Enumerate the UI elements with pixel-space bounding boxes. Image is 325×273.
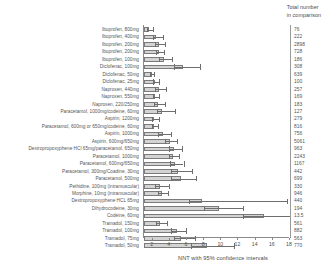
confidence-interval-cap <box>168 191 169 196</box>
totals-divider-line <box>290 25 291 238</box>
confidence-interval-cap <box>175 109 176 114</box>
confidence-interval-cap <box>169 154 170 159</box>
confidence-interval-cap <box>174 64 175 69</box>
confidence-interval-cap <box>155 184 156 189</box>
treatment-label: Aspirin, 1000mg <box>0 130 141 137</box>
total-number-value: 816 <box>292 123 325 130</box>
confidence-interval-cap <box>159 79 160 84</box>
confidence-interval-line <box>153 37 163 38</box>
confidence-interval-cap <box>158 124 159 129</box>
confidence-interval-cap <box>155 42 156 47</box>
bar-row <box>144 190 289 197</box>
confidence-interval-cap <box>153 27 154 32</box>
total-number-value: 330 <box>292 183 325 190</box>
confidence-interval-cap <box>159 117 160 122</box>
treatment-label: Naproxen, 440mg <box>0 86 141 93</box>
bar-row <box>144 212 289 219</box>
confidence-interval-cap <box>152 124 153 129</box>
total-number-value: 127 <box>292 108 325 115</box>
confidence-interval-cap <box>156 50 157 55</box>
bar-row <box>144 78 289 85</box>
total-number-value: 440 <box>292 197 325 204</box>
confidence-interval-line <box>169 156 179 157</box>
treatment-label: Ibuprofen, 100mg <box>0 56 141 63</box>
confidence-interval-cap <box>153 35 154 40</box>
treatment-label: Aspirin, 1200mg <box>0 115 141 122</box>
confidence-interval-line <box>169 149 182 150</box>
treatment-label: Tramadol, 50mg <box>0 242 141 249</box>
total-number-value: 308 <box>292 63 325 70</box>
confidence-interval-cap <box>243 206 244 211</box>
treatment-label: Dihydrocodeine, 30mg <box>0 205 141 212</box>
treatment-label: Dextropropoxyphene HCl 65mg/paracetamol,… <box>0 145 141 152</box>
confidence-interval-line <box>174 67 200 68</box>
x-axis-title: NNT with 95% confidence intervals <box>143 255 303 261</box>
treatment-label: Paracetamol, 600mg/650mg <box>0 160 141 167</box>
total-number-value: 100 <box>292 78 325 85</box>
confidence-interval-cap <box>150 72 151 77</box>
confidence-interval-line <box>155 44 164 45</box>
confidence-interval-cap <box>165 42 166 47</box>
confidence-interval-line <box>153 82 160 83</box>
total-number-value: 2243 <box>292 153 325 160</box>
total-number-value: 963 <box>292 145 325 152</box>
confidence-interval-cap <box>171 228 172 233</box>
bar-row <box>144 115 289 122</box>
confidence-interval-line <box>204 208 243 209</box>
confidence-interval-cap <box>192 169 193 174</box>
treatment-label: Dextropropoxyphene HCL 65mg <box>0 197 141 204</box>
confidence-interval-cap <box>177 139 178 144</box>
confidence-interval-line <box>189 201 287 202</box>
total-number-value: 561 <box>292 220 325 227</box>
bar-row <box>144 227 289 234</box>
confidence-interval-cap <box>158 191 159 196</box>
bar-row <box>144 138 289 145</box>
treatment-label: Tramadol, 75mg <box>0 235 141 242</box>
confidence-interval-line <box>158 134 171 135</box>
total-number-value: 13.5 <box>292 212 325 219</box>
confidence-interval-cap <box>164 50 165 55</box>
x-tick-label: 6 <box>184 241 187 247</box>
bar-row <box>144 123 289 130</box>
bar-row <box>144 86 289 93</box>
total-number-value: 442 <box>292 168 325 175</box>
confidence-interval-cap <box>182 146 183 151</box>
totals-column-header: Total number in comparison <box>287 4 321 19</box>
total-number-value: 169 <box>292 93 325 100</box>
total-number-value: 2898 <box>292 41 325 48</box>
confidence-interval-cap <box>184 161 185 166</box>
confidence-interval-cap <box>147 27 148 32</box>
bar-row <box>144 160 289 167</box>
confidence-interval-cap <box>152 117 153 122</box>
bar-row <box>144 175 289 182</box>
bar-row <box>144 56 289 63</box>
confidence-interval-line <box>171 179 196 180</box>
plot-area <box>143 25 289 238</box>
bar-row <box>144 71 289 78</box>
x-tick-label: 12 <box>235 241 241 247</box>
x-tick-label: 4 <box>167 241 170 247</box>
confidence-interval-line <box>156 52 164 53</box>
confidence-interval-line <box>165 141 176 142</box>
confidence-interval-cap <box>287 199 288 204</box>
total-number-value: 563 <box>292 235 325 242</box>
x-tick-label: 8 <box>202 241 205 247</box>
total-number-value: 946 <box>292 190 325 197</box>
confidence-interval-line <box>170 164 184 165</box>
x-tick-label: 10 <box>217 241 223 247</box>
confidence-interval-line <box>156 223 167 224</box>
confidence-interval-cap <box>167 221 168 226</box>
treatment-label-column: Ibuprofen, 800mgIbuprofen, 400mgIbuprofe… <box>0 26 141 250</box>
treatment-label: Paracetamol, 300mg/Coadine, 30mg <box>0 168 141 175</box>
total-number-value: 756 <box>292 130 325 137</box>
treatment-label: Ibuprofen, 200mg <box>0 41 141 48</box>
treatment-label: Diclofenac, 100mg <box>0 63 141 70</box>
bar-row <box>144 63 289 70</box>
treatment-label: Tramadol, 100mg <box>0 227 141 234</box>
treatment-label: Codeine, 60mg <box>0 212 141 219</box>
confidence-interval-cap <box>153 79 154 84</box>
bar-row <box>144 130 289 137</box>
total-number-value: 728 <box>292 48 325 55</box>
confidence-interval-cap <box>179 154 180 159</box>
bar-row <box>144 168 289 175</box>
